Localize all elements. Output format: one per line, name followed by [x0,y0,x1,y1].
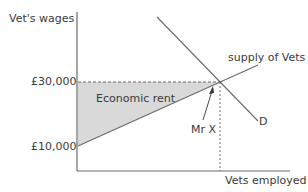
economic-rent-label: Economic rent [96,92,175,105]
mr-x-arrow [203,91,212,120]
tick-label-10000: £10,000 [31,140,77,153]
demand-label: D [259,115,267,128]
y-axis-label: Vet's wages [9,12,74,25]
tick-label-30000: £30,000 [31,75,77,88]
mr-x-label: Mr X [191,123,216,136]
supply-label: supply of Vets [228,51,305,64]
x-axis-label: Vets employed [225,174,307,187]
